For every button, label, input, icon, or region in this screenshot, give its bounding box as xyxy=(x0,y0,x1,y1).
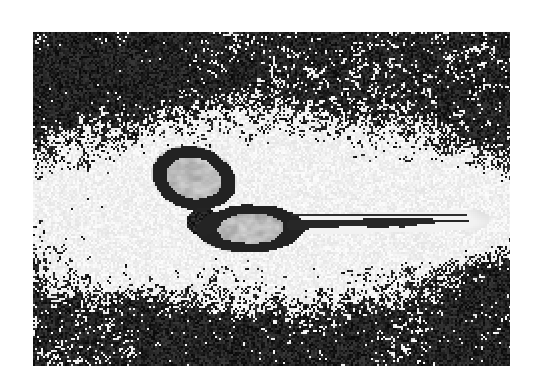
micrograph-canvas xyxy=(33,32,510,366)
micrograph-image xyxy=(33,32,510,366)
figure-root: Grainy high-contrast black-and-white mic… xyxy=(0,0,543,389)
